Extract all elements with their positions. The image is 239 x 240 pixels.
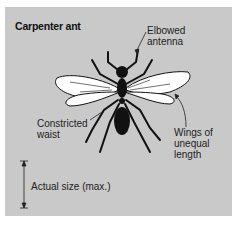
wings-label: Wings of unequal length <box>174 127 213 160</box>
antenna-label-line: Elbowed <box>147 25 185 36</box>
wings-label-line: Wings of <box>174 127 213 138</box>
wings-label-line: unequal <box>174 138 213 149</box>
actual-size-label: Actual size (max.) <box>31 181 110 192</box>
antenna-label: Elbowed antenna <box>147 25 185 47</box>
waist-label: Constricted waist <box>37 118 88 140</box>
antenna-label-line: antenna <box>147 36 185 47</box>
wings-label-line: length <box>174 149 213 160</box>
actual-size-marker <box>20 161 28 208</box>
waist-label-line: waist <box>37 129 88 140</box>
diagram-title: Carpenter ant <box>15 20 81 32</box>
waist-label-line: Constricted <box>37 118 88 129</box>
